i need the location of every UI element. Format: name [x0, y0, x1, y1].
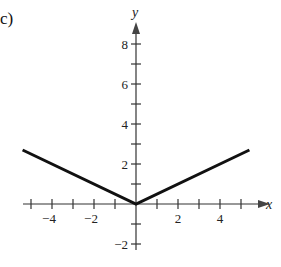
- chart: c) x y −4−224 8642−2: [0, 0, 281, 267]
- y-tick-label: 8: [122, 37, 129, 52]
- y-axis-arrow-icon: [132, 22, 140, 34]
- y-axis-label: y: [130, 5, 139, 20]
- y-tick-label: 4: [122, 117, 129, 132]
- x-tick-label: −4: [42, 211, 56, 226]
- y-tick-label: −2: [114, 237, 128, 252]
- y-tick-label: 6: [122, 77, 129, 92]
- x-axis-label: x: [265, 197, 273, 212]
- axes: x y: [23, 5, 273, 250]
- x-tick-label: 4: [217, 211, 224, 226]
- y-tick-labels: 8642−2: [114, 37, 128, 252]
- part-label: c): [0, 9, 13, 28]
- x-tick-label: −2: [84, 211, 98, 226]
- y-tick-label: 2: [122, 157, 129, 172]
- x-tick-label: 2: [175, 211, 182, 226]
